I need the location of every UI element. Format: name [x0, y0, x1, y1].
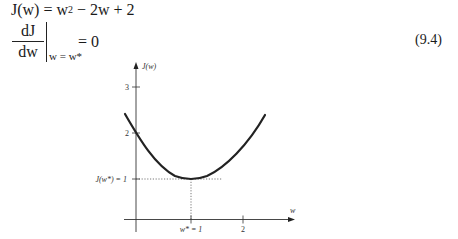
y-tick-label-3: 3 [125, 83, 129, 92]
y-axis-label: J(w) [142, 62, 157, 71]
x-axis-arrow-icon [288, 217, 295, 222]
y-tick-label-2: 2 [125, 129, 129, 138]
x-tick-label-2: 2 [241, 225, 245, 234]
x-tick-label-min: w* = 1 [180, 225, 203, 234]
y-tick-label-min: J(w*) = 1 [95, 175, 127, 184]
parabola-chart: J(w) 3 2 J(w*) = 1 w* = 1 2 w [0, 0, 458, 239]
y-axis-arrow-icon [134, 62, 139, 69]
parabola-curve [125, 114, 265, 179]
x-axis-label: w [290, 206, 296, 215]
